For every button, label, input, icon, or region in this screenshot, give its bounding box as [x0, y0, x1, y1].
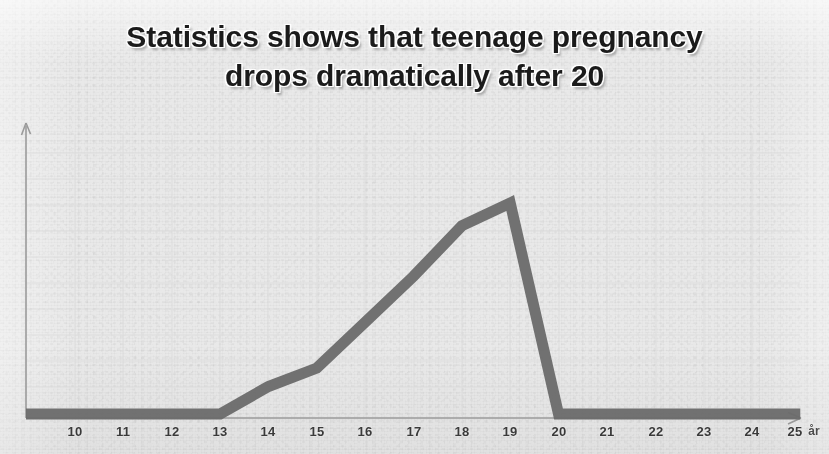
chart-title: Statistics shows that teenage pregnancy … — [0, 17, 829, 95]
y-axis — [22, 123, 31, 418]
chart-title-line-2: drops dramatically after 20 — [0, 56, 829, 95]
chart-title-line-1: Statistics shows that teenage pregnancy — [0, 17, 829, 56]
chart-screenshot: 10 11 12 13 14 15 16 17 18 19 20 21 22 2… — [0, 0, 829, 454]
